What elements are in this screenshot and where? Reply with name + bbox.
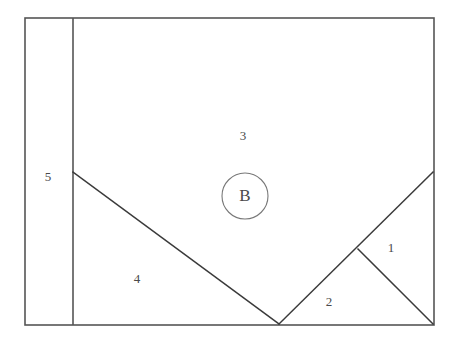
short-diagonal-line xyxy=(358,249,433,324)
diagram-canvas: B 1 2 3 4 5 xyxy=(0,0,458,350)
region-label-4: 4 xyxy=(134,271,141,286)
region-label-2: 2 xyxy=(326,294,333,309)
region-label-3: 3 xyxy=(240,128,247,143)
point-b-label: B xyxy=(239,186,250,205)
geometry-figure: B 1 2 3 4 5 xyxy=(0,0,458,350)
region-label-5: 5 xyxy=(45,169,52,184)
region-label-1: 1 xyxy=(388,240,395,255)
outer-rectangle xyxy=(25,18,434,325)
